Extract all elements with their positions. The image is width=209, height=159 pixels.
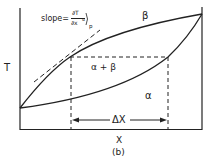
alpha-label: α <box>145 91 152 101</box>
upper-curve <box>20 14 202 108</box>
caption: (b) <box>112 148 125 157</box>
slope-numerator: ∂T <box>72 10 79 16</box>
y-axis-label: T <box>4 63 10 73</box>
tangent-line <box>34 30 100 82</box>
two-phase-label: α + β <box>91 63 116 72</box>
x-axis-label: X <box>116 136 122 145</box>
slope-subscript: p <box>89 24 93 30</box>
lower-curve <box>20 14 202 108</box>
arrow-right-icon <box>160 118 167 123</box>
delta-x-label: ΔX <box>112 115 126 125</box>
beta-label: β <box>142 11 148 21</box>
slope-superscript: α <box>82 18 85 23</box>
slope-bracket <box>86 13 88 25</box>
slope-denominator: ∂x <box>71 20 78 26</box>
phase-diagram <box>0 0 209 159</box>
arrow-left-icon <box>72 118 79 123</box>
slope-text: slope= <box>41 15 69 23</box>
